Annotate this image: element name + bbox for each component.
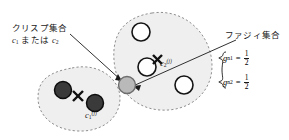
fraction: 1 2 <box>244 74 250 91</box>
data-point-hollow <box>138 58 156 76</box>
fraction: 1 2 <box>244 50 250 67</box>
center-right-superscript: (j) <box>167 58 172 64</box>
crisp-conjunction: または <box>19 35 52 45</box>
data-point-hollow <box>175 76 193 94</box>
equals-sign: = <box>236 77 241 87</box>
equation-lhs-subscript: n2 <box>227 79 233 85</box>
center-label-left: c1(j) <box>85 104 97 122</box>
fraction-numerator: 1 <box>244 74 250 82</box>
crisp-set-label: クリスプ集合 <box>12 24 67 34</box>
crisp-set-sublabel: c1 または c2 <box>12 36 59 46</box>
fraction-denominator: 2 <box>244 58 250 67</box>
fraction-numerator: 1 <box>244 50 250 58</box>
cluster-region-left <box>38 67 120 131</box>
equation-lhs-subscript: n1 <box>227 55 233 61</box>
crisp-c2-subscript: 2 <box>56 39 59 45</box>
membership-equations: gn1 = 1 2 gn2 = 1 2 <box>223 50 249 91</box>
center-left-superscript: (j) <box>92 110 97 116</box>
data-point-filled <box>55 82 72 99</box>
figure-canvas: クリスプ集合 c1 または c2 ファジィ集合 c1(j) c2(j) gn1 … <box>0 0 289 140</box>
fuzzy-set-label: ファジィ集合 <box>225 31 280 41</box>
equals-sign: = <box>236 53 241 63</box>
equation-row: gn2 = 1 2 <box>223 74 249 91</box>
boundary-data-point <box>119 77 136 94</box>
fraction-denominator: 2 <box>244 82 250 91</box>
center-label-right: c2(j) <box>160 52 172 70</box>
data-point-hollow <box>132 23 150 41</box>
equation-row: gn1 = 1 2 <box>223 50 249 67</box>
